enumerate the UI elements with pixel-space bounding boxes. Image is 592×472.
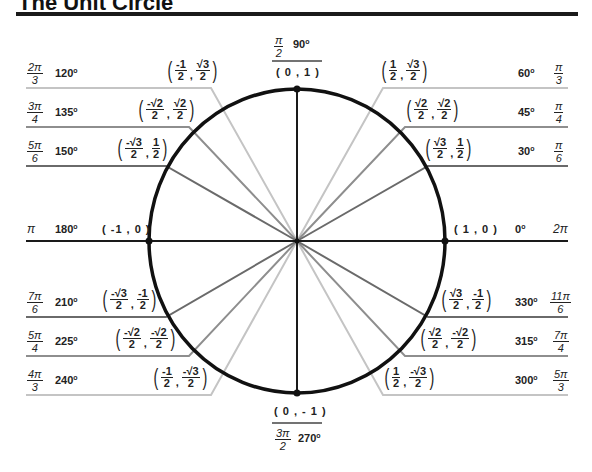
rad-label-60: π3 xyxy=(554,61,563,86)
coord-label-270: ( 0 , - 1 ) xyxy=(274,405,327,417)
coord-label-330: (√32,-12) xyxy=(440,287,493,311)
rad-label-135: 3π4 xyxy=(27,100,43,125)
rad-label-90: π2 xyxy=(274,34,283,59)
rad-label-2pi: 2π xyxy=(553,222,568,236)
deg-label-210: 210o xyxy=(55,296,78,308)
deg-label-225: 225o xyxy=(55,335,78,347)
coord-label-300: (12,-√32) xyxy=(383,365,436,389)
coord-label-60: (12,√32) xyxy=(380,58,429,82)
coord-label-90: ( 0 , 1 ) xyxy=(276,66,320,78)
deg-label-0: 0o xyxy=(515,223,525,235)
deg-label-300: 300o xyxy=(515,374,538,386)
rad-label-270: 3π2 xyxy=(275,427,291,452)
deg-label-135: 135o xyxy=(55,106,78,118)
rad-label-225: 5π4 xyxy=(27,329,43,354)
deg-label-315: 315o xyxy=(515,335,538,347)
coord-label-240: (-12,-√32) xyxy=(152,365,209,389)
rad-label-180: π xyxy=(27,222,35,236)
rad-label-150: 5π6 xyxy=(27,139,43,164)
deg-label-150: 150o xyxy=(55,145,78,157)
rad-label-315: 7π4 xyxy=(553,329,569,354)
rad-label-120: 2π3 xyxy=(27,61,43,86)
rad-label-45: π4 xyxy=(554,100,563,125)
coord-label-315: (√22,-√22) xyxy=(419,326,478,350)
rad-label-30: π6 xyxy=(554,139,563,164)
deg-label-330: 330o xyxy=(515,296,538,308)
coord-label-225: (-√22,-√22) xyxy=(114,326,177,350)
deg-label-270: 270o xyxy=(298,432,321,444)
coord-label-210: (-√32,-12) xyxy=(101,287,158,311)
deg-label-240: 240o xyxy=(55,374,78,386)
coord-label-30: (√32,12) xyxy=(424,136,473,160)
coord-label-120: (-12,√32) xyxy=(166,58,219,82)
rad-label-210: 7π6 xyxy=(27,290,43,315)
deg-label-180: 180o xyxy=(55,223,78,235)
coord-label-45: (√22,√22) xyxy=(405,97,460,121)
rad-label-240: 4π3 xyxy=(27,368,43,393)
coord-label-0: ( 1 , 0 ) xyxy=(454,223,498,235)
coord-label-135: (-√22,√22) xyxy=(137,97,196,121)
coord-label-150: (-√32,12) xyxy=(116,136,169,160)
coord-label-180: ( -1 , 0 ) xyxy=(102,223,151,235)
rad-label-300: 5π3 xyxy=(553,368,569,393)
deg-label-120: 120o xyxy=(55,67,78,79)
deg-label-90: 90o xyxy=(293,38,310,50)
deg-label-30: 30o xyxy=(518,145,535,157)
rad-label-330: 11π6 xyxy=(550,290,571,315)
deg-label-60: 60o xyxy=(518,67,535,79)
deg-label-45: 45o xyxy=(518,106,535,118)
